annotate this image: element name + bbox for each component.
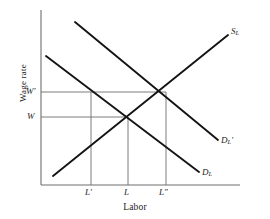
labor-supply-curve (53, 35, 228, 176)
x-tick-label-l: L (124, 188, 129, 197)
y-axis-title: Wage rate (18, 51, 28, 115)
axes (41, 10, 240, 185)
curve-label-labor-demand: DL (202, 168, 212, 178)
y-tick-label-w-prime: W′ (26, 87, 35, 96)
labor-market-chart: Wage rate Labor W′ W L′ L L″ SL DL′ DL (0, 0, 270, 219)
labor-demand-curve (46, 56, 199, 172)
labor-demand-shifted-curve (75, 22, 218, 140)
curve-label-labor-demand-shifted: DL′ (221, 136, 233, 146)
curve-label-labor-supply: SL (231, 27, 239, 37)
x-axis-title: Labor (0, 202, 270, 212)
x-tick-label-l-double-prime: L″ (159, 188, 168, 197)
x-tick-label-l-prime: L′ (85, 188, 92, 197)
y-tick-label-w: W (27, 112, 35, 121)
curves (46, 22, 228, 176)
chart-canvas (0, 0, 270, 219)
